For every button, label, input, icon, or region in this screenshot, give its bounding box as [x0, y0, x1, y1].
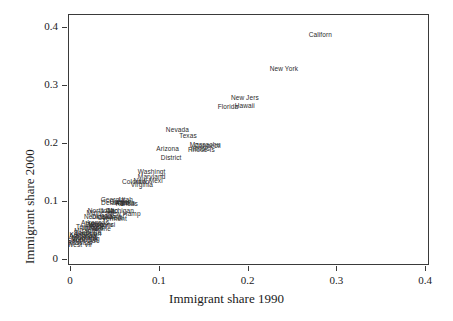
y-tick-mark: [62, 85, 67, 86]
y-tick-label: 0.4: [18, 20, 58, 32]
x-tick-label: 0.4: [405, 274, 445, 286]
x-tick-label: 0.3: [316, 274, 356, 286]
x-tick-label: 0.1: [139, 274, 179, 286]
x-tick-label: 0.2: [228, 274, 268, 286]
data-point-label: Florida: [218, 104, 239, 111]
data-point-label: West Vir: [68, 241, 92, 248]
x-tick-label: 0: [50, 274, 90, 286]
data-point-label: Rhode Is: [188, 147, 215, 154]
x-tick-mark: [248, 266, 249, 271]
x-tick-mark: [159, 266, 160, 271]
data-point-label: District: [161, 154, 182, 161]
y-tick-mark: [62, 143, 67, 144]
x-axis-title: Immigrant share 1990: [0, 291, 453, 307]
y-axis-title: Immigrant share 2000: [22, 149, 38, 264]
x-tick-mark: [336, 266, 337, 271]
y-tick-mark: [62, 259, 67, 260]
data-point-label: Arizona: [156, 146, 179, 153]
plot-data-layer: CalifornNew YorkNew JersHawaiiFloridaNev…: [68, 14, 429, 265]
data-point-label: Virginia: [131, 182, 153, 189]
x-tick-mark: [70, 266, 71, 271]
data-point-label: Texas: [179, 133, 196, 140]
data-point-label: Californ: [309, 31, 332, 38]
y-tick-mark: [62, 201, 67, 202]
y-tick-label: 0.2: [18, 136, 58, 148]
scatter-plot-figure: CalifornNew YorkNew JersHawaiiFloridaNev…: [0, 0, 453, 321]
data-point-label: New York: [270, 66, 298, 73]
y-tick-mark: [62, 27, 67, 28]
x-tick-mark: [425, 266, 426, 271]
y-tick-label: 0.3: [18, 78, 58, 90]
data-point-label: New Jers: [231, 95, 259, 102]
